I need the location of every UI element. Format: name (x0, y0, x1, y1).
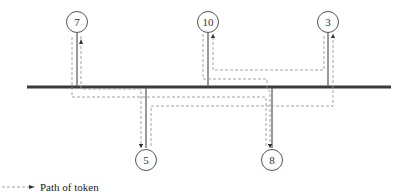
token-path-7-to-5 (81, 36, 141, 146)
node-8: 8 (262, 150, 283, 171)
node-7: 7 (67, 12, 88, 33)
token-bus-diagram: 7 10 3 5 8 Path of token (0, 0, 407, 196)
node-8-label: 8 (269, 154, 275, 166)
node-3-label: 3 (325, 16, 331, 28)
token-path-group (72, 34, 333, 146)
legend-label: Path of token (40, 181, 99, 193)
legend: Path of token (2, 181, 99, 193)
token-path-10-to-8 (203, 34, 270, 146)
legend-arrow-icon (29, 185, 35, 189)
token-path-3-to-10 (213, 36, 324, 70)
node-5: 5 (136, 150, 157, 171)
node-3: 3 (318, 12, 339, 33)
node-5-label: 5 (143, 154, 149, 166)
token-path-5-to-3 (151, 36, 333, 146)
token-path-8-to-7 (72, 36, 266, 146)
node-7-label: 7 (74, 16, 80, 28)
arrow-into-node-7 (79, 39, 83, 44)
node-10-label: 10 (203, 16, 215, 28)
node-10: 10 (198, 12, 219, 33)
